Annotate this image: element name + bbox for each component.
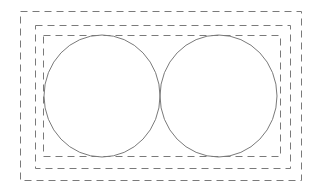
outer-dashed-rectangle	[21, 12, 302, 181]
diagram-canvas	[0, 0, 318, 189]
middle-dashed-rectangle	[36, 26, 291, 169]
left-circle	[44, 35, 160, 157]
inner-dashed-rectangle	[44, 36, 281, 157]
right-circle	[160, 35, 277, 157]
